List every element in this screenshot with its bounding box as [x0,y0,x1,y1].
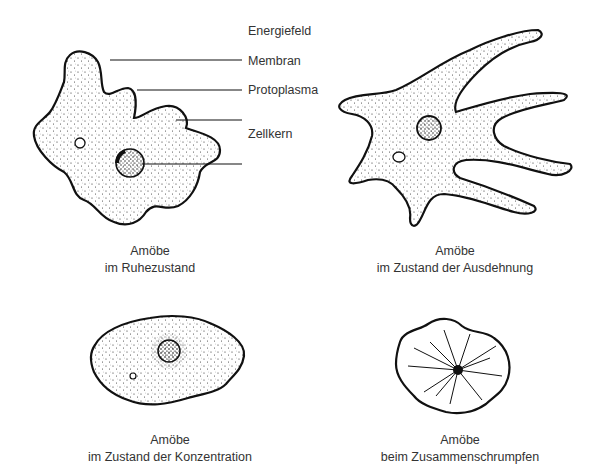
label-protoplasma: Protoplasma [248,83,318,97]
caption-subtitle: im Zustand der Ausdehnung [345,260,565,277]
caption-subtitle: beim Zusammenschrumpfen [350,449,570,466]
caption-concentration: Amöbe im Zustand der Konzentration [60,432,280,466]
caption-resting: Amöbe im Ruhezustand [60,243,240,277]
label-zellkern: Zellkern [248,127,292,141]
caption-expanded: Amöbe im Zustand der Ausdehnung [345,243,565,277]
vacuole-icon [130,373,136,379]
amoeba-resting [34,51,242,224]
amoeba-expanded [339,30,571,226]
caption-subtitle: im Ruhezustand [60,260,240,277]
diagram-drawing [0,0,597,474]
caption-title: Amöbe [345,243,565,260]
amoeba-concentrated [91,316,244,404]
caption-title: Amöbe [350,432,570,449]
label-membran: Membran [248,54,301,68]
nucleus-icon [417,116,441,140]
vacuole-icon [393,152,405,162]
caption-title: Amöbe [60,243,240,260]
amoeba-shrinking [396,319,509,413]
caption-shrinking: Amöbe beim Zusammenschrumpfen [350,432,570,466]
label-energiefeld: Energiefeld [248,24,311,38]
vacuole-icon [75,138,85,148]
caption-subtitle: im Zustand der Konzentration [60,449,280,466]
caption-title: Amöbe [60,432,280,449]
amoeba-diagram: Energiefeld Membran Protoplasma Zellkern… [0,0,597,474]
